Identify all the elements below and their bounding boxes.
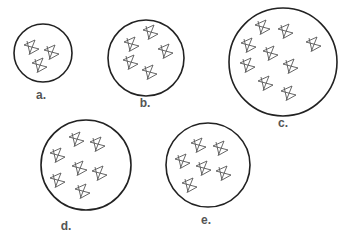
container-circle (166, 123, 250, 207)
diagram-canvas (0, 0, 340, 245)
panel-b (108, 20, 184, 96)
container-circle (41, 120, 131, 210)
panel-label: c. (278, 116, 288, 130)
panel-a (14, 24, 72, 82)
container-circle (229, 8, 337, 116)
panel-label: a. (36, 88, 46, 102)
panel-label: e. (201, 213, 211, 227)
panel-label: b. (140, 96, 151, 110)
panel-e (166, 123, 250, 207)
container-circle (108, 20, 184, 96)
panel-label: d. (61, 219, 72, 233)
panel-d (41, 120, 131, 210)
container-circle (14, 24, 72, 82)
panel-c (229, 8, 337, 116)
